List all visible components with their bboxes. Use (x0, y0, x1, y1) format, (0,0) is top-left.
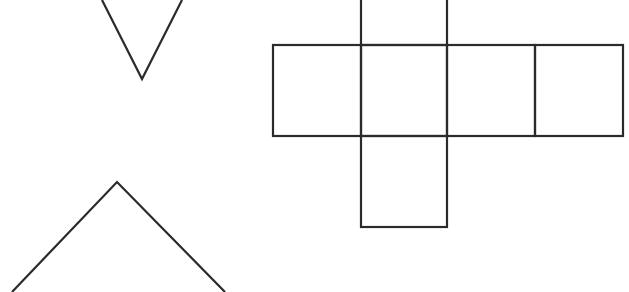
net-square-right (447, 45, 535, 136)
bottom-triangle (12, 182, 225, 292)
geometry-figure (0, 0, 629, 292)
triangles-group (12, 0, 225, 292)
net-square-far-right (535, 45, 623, 136)
top-triangle (102, 0, 182, 79)
net-square-left (273, 45, 361, 136)
diagram-canvas (0, 0, 629, 292)
net-square-center (361, 45, 447, 136)
cube-net (273, 0, 623, 227)
net-square-top (361, 0, 447, 45)
net-square-bottom (361, 136, 447, 227)
